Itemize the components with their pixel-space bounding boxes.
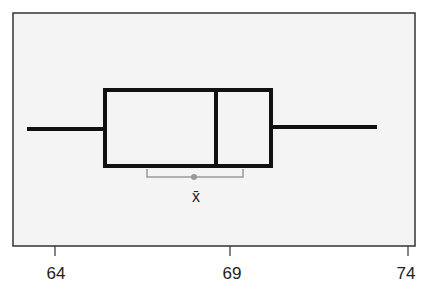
tick-label-64: 64 <box>47 264 66 283</box>
mean-marker <box>191 174 197 180</box>
boxplot-chart: x̄ 64 69 74 <box>0 0 423 289</box>
tick-label-74: 74 <box>397 264 416 283</box>
tick-label-69: 69 <box>223 264 242 283</box>
mean-label: x̄ <box>192 188 200 205</box>
